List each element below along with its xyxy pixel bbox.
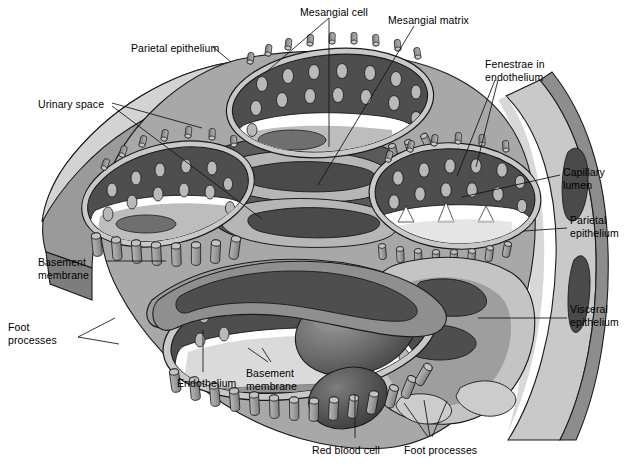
label-visceral-epithelium: Visceral epithelium	[570, 303, 619, 328]
label-basement-membrane-bottom: Basement membrane	[246, 367, 297, 392]
leader-foot-left-b	[78, 337, 119, 344]
diagram-page: Mesangial cellMesangial matrixParietal e…	[0, 0, 627, 466]
label-foot-processes-bottom: Foot processes	[404, 444, 477, 457]
label-urinary-space: Urinary space	[38, 98, 104, 111]
label-red-blood-cell: Red blood cell	[312, 444, 380, 457]
label-basement-membrane-left: Basement membrane	[38, 256, 89, 281]
label-capillary-lumen: Capillary lumen	[563, 166, 605, 191]
label-foot-processes-left: Foot processes	[8, 321, 57, 346]
label-parietal-epithelium-right: Parietal epithelium	[570, 214, 619, 239]
label-parietal-epithelium-top: Parietal epithelium	[131, 42, 219, 55]
label-mesangial-cell: Mesangial cell	[300, 6, 368, 19]
label-fenestrae-endothelium: Fenestrae in endothelium	[485, 58, 545, 83]
leader-foot-left-a	[78, 318, 115, 337]
label-endothelium: Endothelium	[177, 377, 236, 390]
label-mesangial-matrix: Mesangial matrix	[388, 14, 469, 27]
